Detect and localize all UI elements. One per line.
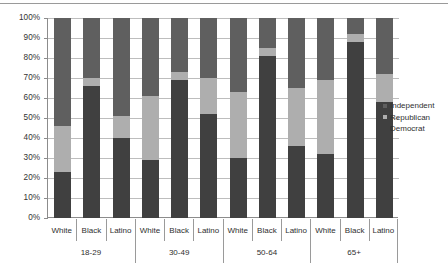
bar-segment-democrat bbox=[142, 160, 159, 218]
race-label-cell: White bbox=[47, 219, 76, 241]
bar-segment-republican bbox=[288, 88, 305, 146]
bar-white-50-64 bbox=[230, 18, 247, 218]
bar-segment-independent bbox=[230, 18, 247, 92]
y-tick-label: 10% bbox=[24, 194, 40, 202]
y-tick-label: 60% bbox=[24, 94, 40, 102]
race-label-cell: Latino bbox=[193, 219, 222, 241]
bar-segment-republican bbox=[171, 72, 188, 80]
legend-label: Independent bbox=[390, 101, 435, 110]
bar-segment-independent bbox=[259, 18, 276, 48]
age-group-label-cell: 65+ bbox=[310, 241, 398, 263]
race-label-cell: Black bbox=[340, 219, 369, 241]
bar-black-30-49 bbox=[171, 18, 188, 218]
y-tick-label: 70% bbox=[24, 74, 40, 82]
bar-segment-independent bbox=[317, 18, 334, 80]
bar-segment-independent bbox=[347, 18, 364, 34]
age-group-label-row: 18-2930-4950-6465+ bbox=[47, 241, 398, 263]
race-label-cell: White bbox=[310, 219, 339, 241]
bar-segment-independent bbox=[288, 18, 305, 88]
bar-segment-republican bbox=[230, 92, 247, 158]
race-label-cell: Black bbox=[164, 219, 193, 241]
age-group-label-cell: 30-49 bbox=[135, 241, 223, 263]
bar-segment-republican bbox=[113, 116, 130, 138]
race-label-cell: Black bbox=[252, 219, 281, 241]
bar-segment-republican bbox=[347, 34, 364, 42]
bar-segment-democrat bbox=[347, 42, 364, 218]
bar-segment-independent bbox=[142, 18, 159, 96]
race-label-cell: Latino bbox=[281, 219, 310, 241]
bar-segment-republican bbox=[142, 96, 159, 160]
bar-segment-independent bbox=[54, 18, 71, 126]
legend-label: Democrat bbox=[390, 124, 425, 133]
age-group-label-cell: 18-29 bbox=[47, 241, 135, 263]
plot-area bbox=[47, 18, 398, 218]
race-label-row: WhiteBlackLatinoWhiteBlackLatinoWhiteBla… bbox=[47, 219, 398, 241]
y-tick-label: 30% bbox=[24, 154, 40, 162]
legend-label: Republican bbox=[390, 113, 430, 122]
bar-black-50-64 bbox=[259, 18, 276, 218]
bar-segment-democrat bbox=[54, 172, 71, 218]
bar-white-18-29 bbox=[54, 18, 71, 218]
category-axis: WhiteBlackLatinoWhiteBlackLatinoWhiteBla… bbox=[47, 219, 398, 263]
legend: IndependentRepublicanDemocrat bbox=[383, 101, 435, 133]
y-tick-label: 100% bbox=[19, 14, 40, 22]
legend-swatch-icon bbox=[383, 104, 387, 108]
bar-segment-independent bbox=[200, 18, 217, 78]
bar-black-18-29 bbox=[83, 18, 100, 218]
top-divider bbox=[0, 3, 448, 4]
y-tick-label: 0% bbox=[28, 214, 40, 222]
bar-latino-50-64 bbox=[288, 18, 305, 218]
y-tick-label: 80% bbox=[24, 54, 40, 62]
bar-segment-democrat bbox=[288, 146, 305, 218]
bar-segment-republican bbox=[54, 126, 71, 172]
bar-segment-independent bbox=[376, 18, 393, 74]
bar-segment-republican bbox=[83, 78, 100, 86]
bar-latino-18-29 bbox=[113, 18, 130, 218]
legend-swatch-icon bbox=[383, 127, 387, 131]
bar-white-65+ bbox=[317, 18, 334, 218]
stacked-bar-chart: 100%90%80%70%60%50%40%30%20%10%0% WhiteB… bbox=[0, 0, 448, 270]
bar-segment-independent bbox=[113, 18, 130, 116]
bar-segment-democrat bbox=[317, 154, 334, 218]
legend-item-republican[interactable]: Republican bbox=[383, 113, 435, 122]
race-label-cell: Latino bbox=[369, 219, 398, 241]
bar-segment-democrat bbox=[83, 86, 100, 218]
bar-segment-democrat bbox=[200, 114, 217, 218]
bar-segment-democrat bbox=[259, 56, 276, 218]
bar-segment-republican bbox=[200, 78, 217, 114]
bar-black-65+ bbox=[347, 18, 364, 218]
bar-segment-democrat bbox=[230, 158, 247, 218]
bar-segment-independent bbox=[83, 18, 100, 78]
bar-segment-democrat bbox=[113, 138, 130, 218]
bar-segment-republican bbox=[317, 80, 334, 154]
y-tick-label: 50% bbox=[24, 114, 40, 122]
y-tick-label: 40% bbox=[24, 134, 40, 142]
bar-segment-republican bbox=[259, 48, 276, 56]
legend-item-democrat[interactable]: Democrat bbox=[383, 124, 435, 133]
y-tick-label: 20% bbox=[24, 174, 40, 182]
y-tick-label: 90% bbox=[24, 34, 40, 42]
bars-container bbox=[48, 18, 399, 218]
bar-segment-democrat bbox=[171, 80, 188, 218]
legend-item-independent[interactable]: Independent bbox=[383, 101, 435, 110]
bar-white-30-49 bbox=[142, 18, 159, 218]
race-label-cell: Latino bbox=[106, 219, 135, 241]
y-axis-labels: 100%90%80%70%60%50%40%30%20%10%0% bbox=[0, 0, 45, 270]
bar-latino-30-49 bbox=[200, 18, 217, 218]
race-label-cell: Black bbox=[76, 219, 105, 241]
legend-swatch-icon bbox=[383, 115, 387, 119]
race-label-cell: White bbox=[223, 219, 252, 241]
race-label-cell: White bbox=[135, 219, 164, 241]
age-group-label-cell: 50-64 bbox=[223, 241, 311, 263]
bar-segment-independent bbox=[171, 18, 188, 72]
bar-segment-republican bbox=[376, 74, 393, 102]
